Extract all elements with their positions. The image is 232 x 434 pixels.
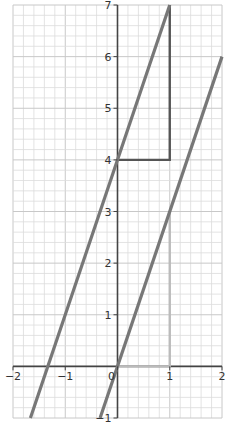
y-tick-label: 2	[105, 257, 112, 270]
tick-labels: −2−1012−11234567	[5, 0, 226, 425]
series-line	[100, 57, 222, 418]
x-tick-label: 2	[219, 370, 226, 383]
y-tick-label: 4	[105, 154, 112, 167]
y-tick-label: 3	[105, 206, 112, 219]
slope-triangles	[118, 5, 170, 366]
x-tick-label: 1	[166, 370, 173, 383]
x-tick-label: −1	[57, 370, 73, 383]
y-tick-label: 6	[105, 51, 112, 64]
x-tick-label: 0	[108, 370, 115, 383]
line-chart: −2−1012−11234567	[0, 0, 232, 434]
y-tick-label: 7	[105, 0, 112, 12]
y-tick-label: −1	[95, 412, 111, 425]
y-tick-label: 1	[105, 309, 112, 322]
y-tick-label: 5	[105, 102, 112, 115]
x-tick-label: −2	[5, 370, 21, 383]
